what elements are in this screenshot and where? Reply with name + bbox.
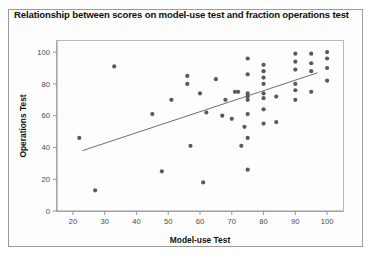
data-point (261, 107, 265, 111)
data-point (261, 96, 265, 100)
y-axis: 020406080100 (37, 41, 57, 216)
x-tick-label: 40 (132, 217, 140, 226)
data-point (293, 67, 297, 71)
data-point (309, 69, 313, 73)
data-point (274, 95, 278, 99)
x-tick-label: 50 (164, 217, 172, 226)
data-point (169, 98, 173, 102)
data-point (160, 169, 164, 173)
y-tick-label: 60 (42, 111, 50, 120)
data-point (309, 61, 313, 65)
data-point (261, 82, 265, 86)
data-point (325, 66, 329, 70)
x-axis-title: Model-use Test (170, 235, 231, 245)
y-axis-title: Operations Test (18, 94, 28, 157)
y-tick-label: 80 (42, 80, 50, 89)
data-point (188, 144, 192, 148)
x-tick-label: 70 (228, 217, 236, 226)
data-point (293, 52, 297, 56)
data-point (93, 188, 97, 192)
x-tick-label: 90 (291, 217, 299, 226)
data-point (112, 64, 116, 68)
x-tick-label: 20 (69, 217, 77, 226)
data-point (325, 50, 329, 54)
data-point (204, 110, 208, 114)
y-tick-label: 20 (42, 175, 50, 184)
data-point (261, 122, 265, 126)
y-tick-label: 40 (42, 143, 50, 152)
data-point (261, 75, 265, 79)
data-point (246, 136, 250, 140)
data-point (246, 56, 250, 60)
x-axis: 2030405060708090100 (57, 211, 343, 226)
data-point (185, 74, 189, 78)
data-point (309, 90, 313, 94)
data-point (77, 136, 81, 140)
data-point (309, 52, 313, 56)
data-point (214, 77, 218, 81)
data-point (261, 91, 265, 95)
data-point (246, 72, 250, 76)
data-point (293, 88, 297, 92)
data-point (261, 63, 265, 67)
data-point (220, 114, 224, 118)
y-tick-label: 0 (46, 207, 50, 216)
trend-line (82, 73, 317, 151)
data-points (77, 50, 329, 192)
x-tick-label: 80 (259, 217, 267, 226)
y-tick-label: 100 (37, 48, 50, 57)
data-point (261, 69, 265, 73)
plot-frame (57, 41, 344, 212)
data-point (185, 82, 189, 86)
x-tick-label: 60 (196, 217, 204, 226)
data-point (246, 98, 250, 102)
data-point (223, 98, 227, 102)
data-point (246, 112, 250, 116)
data-point (201, 180, 205, 184)
data-point (293, 60, 297, 64)
x-tick-label: 100 (321, 217, 334, 226)
data-point (150, 112, 154, 116)
data-point (198, 91, 202, 95)
data-point (325, 79, 329, 83)
data-point (325, 56, 329, 60)
data-point (246, 168, 250, 172)
data-point (230, 117, 234, 121)
data-point (293, 98, 297, 102)
regression-line (82, 73, 317, 151)
data-point (293, 82, 297, 86)
data-point (274, 120, 278, 124)
plot-area: 020406080100 2030405060708090100 Operati… (0, 0, 373, 260)
scatter-plot-svg: 020406080100 2030405060708090100 Operati… (0, 0, 373, 260)
data-point (239, 144, 243, 148)
data-point (242, 125, 246, 129)
x-tick-label: 30 (100, 217, 108, 226)
data-point (236, 90, 240, 94)
